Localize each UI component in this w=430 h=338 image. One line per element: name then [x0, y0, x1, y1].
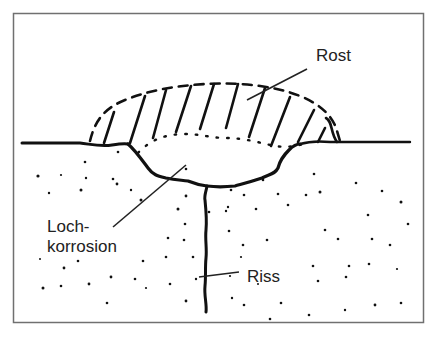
- label-pitting-line1: Loch-: [47, 217, 90, 236]
- label-crack: Riss: [247, 267, 280, 286]
- pitting-corrosion-diagram: Rost Loch- korrosion Riss: [0, 0, 430, 338]
- pitting-leader-line: [113, 165, 186, 227]
- pit-outline: [128, 144, 300, 187]
- label-pitting-line2: korrosion: [47, 237, 117, 256]
- crack-line: [205, 186, 207, 312]
- pit-inner-dotted-boundary: [138, 134, 307, 153]
- diagram-frame: [14, 14, 424, 323]
- rust-hatching: [104, 84, 337, 146]
- label-rust: Rost: [316, 46, 351, 65]
- metal-substrate-stipple: [36, 151, 409, 321]
- metal-surface-line: [22, 143, 128, 146]
- metal-surface-line-right: [300, 141, 410, 144]
